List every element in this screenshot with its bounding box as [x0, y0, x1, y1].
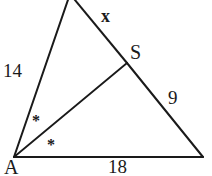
vertex-label-a: A	[4, 157, 18, 176]
side-length-label-left: 14	[3, 61, 22, 80]
side-length-label-x: x	[101, 7, 110, 25]
side-length-label-bottom: 18	[108, 157, 127, 176]
segment-s-to-c	[127, 63, 203, 157]
segment-apex-to-s	[70, 0, 127, 63]
angle-mark-lower: *	[47, 137, 55, 153]
side-length-label-lower-right: 9	[168, 88, 178, 107]
geometry-diagram: 14 x 9 18 S A * *	[0, 0, 212, 176]
triangle-figure	[0, 0, 212, 176]
vertex-label-s: S	[130, 42, 141, 62]
angle-mark-upper: *	[32, 113, 40, 129]
